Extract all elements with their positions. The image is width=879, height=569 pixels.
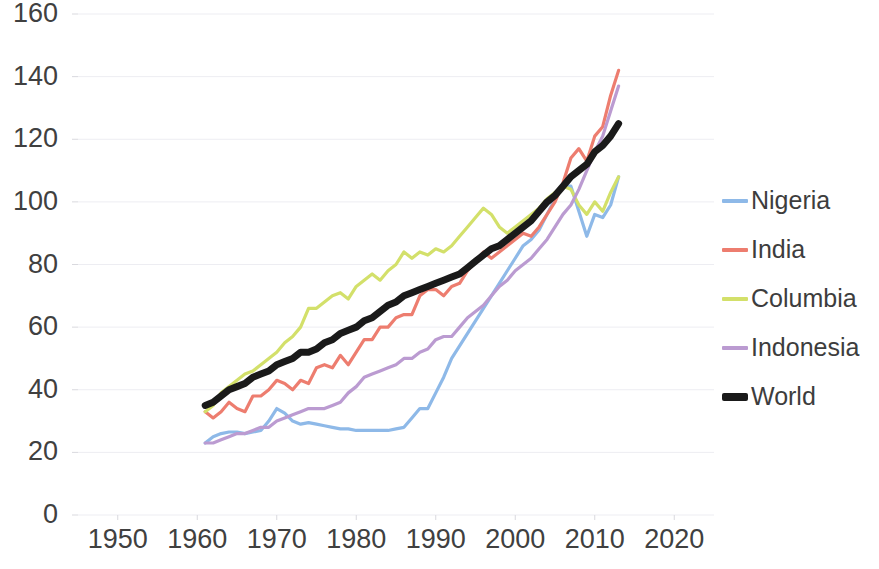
series-lines bbox=[205, 70, 618, 443]
legend-swatch-icon bbox=[722, 248, 748, 252]
chart-legend: NigeriaIndiaColumbiaIndonesiaWorld bbox=[722, 176, 879, 421]
legend-swatch-icon bbox=[722, 199, 748, 203]
series-line-nigeria bbox=[205, 177, 618, 443]
legend-item-indonesia[interactable]: Indonesia bbox=[722, 323, 879, 372]
legend-item-label: Nigeria bbox=[751, 188, 830, 213]
legend-swatch-icon bbox=[722, 297, 748, 301]
legend-item-label: World bbox=[751, 384, 816, 409]
axis-tick-marks bbox=[72, 14, 674, 520]
series-line-india bbox=[205, 70, 618, 418]
legend-item-world[interactable]: World bbox=[722, 372, 879, 421]
line-chart: 160140120100806040200 195019601970198019… bbox=[0, 0, 879, 569]
legend-item-label: Indonesia bbox=[751, 335, 859, 360]
legend-item-nigeria[interactable]: Nigeria bbox=[722, 176, 879, 225]
legend-swatch-icon bbox=[722, 393, 748, 401]
legend-swatch-icon bbox=[722, 346, 748, 350]
legend-item-india[interactable]: India bbox=[722, 225, 879, 274]
legend-item-label: India bbox=[751, 237, 805, 262]
legend-item-columbia[interactable]: Columbia bbox=[722, 274, 879, 323]
legend-item-label: Columbia bbox=[751, 286, 857, 311]
